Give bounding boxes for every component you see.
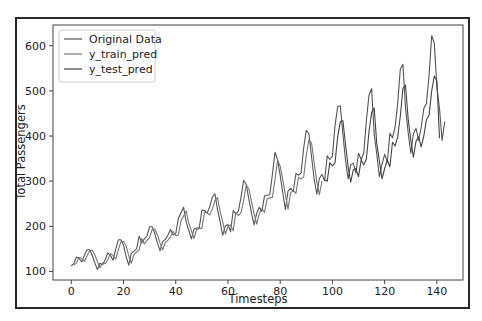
x-tick-label: 120 <box>374 285 395 298</box>
y-axis: 100200300400500600 <box>25 40 53 279</box>
y-tick-label: 400 <box>25 130 46 143</box>
legend-label: y_train_pred <box>89 48 157 61</box>
x-tick-label: 40 <box>169 285 183 298</box>
x-tick-label: 100 <box>322 285 343 298</box>
y-tick-label: 200 <box>25 220 46 233</box>
y-axis-label: Total Passengers <box>14 104 28 200</box>
legend-label: y_test_pred <box>89 63 153 76</box>
x-tick-label: 20 <box>117 285 131 298</box>
x-tick-label: 140 <box>426 285 447 298</box>
y-tick-label: 100 <box>25 265 46 278</box>
y-tick-label: 600 <box>25 40 46 53</box>
legend-label: Original Data <box>89 33 162 46</box>
y-tick-label: 500 <box>25 85 46 98</box>
legend: Original Datay_train_predy_test_pred <box>59 30 162 82</box>
line-chart: 020406080100120140 100200300400500600 Ti… <box>0 0 482 321</box>
x-axis-label: Timesteps <box>227 292 287 306</box>
x-tick-label: 0 <box>68 285 75 298</box>
y-tick-label: 300 <box>25 175 46 188</box>
